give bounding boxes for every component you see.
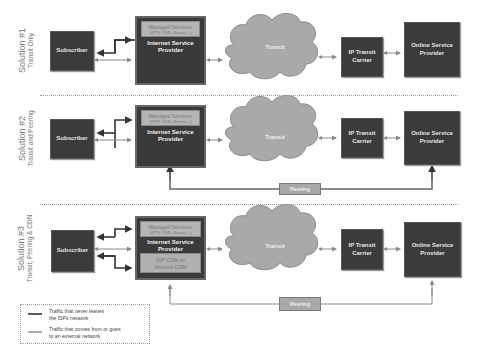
carrier-line1: IP Transit	[349, 49, 376, 55]
osp-line1: Online Service	[411, 42, 453, 48]
osp-line2: Provider	[420, 138, 444, 144]
solution-2-label: Solution #2 Transit and Peering	[17, 102, 34, 176]
osp-line1: Online Service	[412, 242, 454, 248]
legend-item-internal-line2: the ISPs network	[49, 315, 149, 322]
osp-line2: Provider	[420, 250, 444, 256]
managed-services-sub: (IPTV, VOD, Games...)	[142, 119, 199, 124]
managed-services-box: Managed Services (IPTV, VOD, Games...)	[141, 21, 200, 37]
managed-services-box: Managed Services (IPTV, VOD, Games...)	[141, 110, 200, 126]
isp-label-line1: Internet Service	[137, 238, 204, 245]
subscriber-box: Subscriber	[51, 230, 94, 272]
managed-services-sub: (IPTV, VOD, Games...)	[141, 230, 200, 235]
peering-box: Peering	[279, 297, 321, 311]
subscriber-label: Subscriber	[56, 47, 87, 55]
carrier-line1: IP Transit	[349, 242, 376, 248]
subscriber-box: Subscriber	[50, 31, 94, 71]
isp-box: Managed Services (IPTV, VOD, Games...) I…	[135, 16, 206, 85]
legend-item-external: Traffic that comes from or goes to an ex…	[49, 326, 149, 340]
osp-line1: Online Service	[411, 130, 453, 136]
solution-3-label: Solution #3 Transit, Peering & CDN	[16, 207, 33, 291]
isp-label: Internet Service Provider	[137, 39, 204, 53]
managed-services-box: Managed Services (IPTV, VOD, Games...)	[140, 221, 201, 237]
isp-label-line2: Provider	[137, 135, 204, 142]
solution-1-label: Solution #1 Transit Only	[17, 16, 34, 86]
separator-2	[40, 204, 285, 205]
carrier-line2: Carrier	[352, 138, 372, 144]
cdn-line1: ISP CDN or	[141, 257, 200, 264]
separator-2b	[285, 204, 458, 205]
cdn-box: ISP CDN or Hosted CDN	[140, 253, 201, 273]
legend-item-external-line1: Traffic that comes from or goes	[49, 326, 149, 333]
managed-services-sub: (IPTV, VOD, Games...)	[142, 30, 199, 35]
isp-label: Internet Service Provider	[137, 128, 204, 142]
transit-label: Transit	[250, 243, 300, 249]
transit-cloud	[225, 95, 317, 160]
transit-label: Transit	[250, 44, 300, 50]
solution-title: Solution #3	[16, 207, 26, 291]
ip-transit-carrier-box: IP TransitCarrier	[341, 118, 383, 158]
online-service-provider-box: Online ServiceProvider	[404, 111, 460, 165]
separator-1	[40, 95, 458, 96]
solution-subtitle: Transit, Peering & CDN	[26, 207, 33, 291]
isp-label-line2: Provider	[137, 46, 204, 53]
solution-title: Solution #2	[17, 102, 27, 176]
carrier-line2: Carrier	[352, 57, 372, 63]
solution-title: Solution #1	[17, 16, 27, 86]
cdn-line2: Hosted CDN	[141, 264, 200, 271]
solution-subtitle: Transit and Peering	[27, 102, 34, 176]
peering-box: Peering	[279, 183, 321, 195]
transit-label: Transit	[250, 134, 300, 140]
legend-item-external-line2: to an external network	[49, 333, 149, 340]
subscriber-box: Subscriber	[50, 119, 94, 159]
osp-line2: Provider	[420, 50, 444, 56]
online-service-provider-box: Online ServiceProvider	[404, 222, 461, 277]
carrier-line1: IP Transit	[349, 130, 376, 136]
isp-box: Managed Services (IPTV, VOD, Games...) I…	[135, 216, 206, 280]
isp-label-line1: Internet Service	[137, 39, 204, 46]
legend-item-internal-line1: Traffic that never leaves	[49, 308, 149, 315]
legend-item-internal: Traffic that never leaves the ISPs netwo…	[49, 308, 149, 322]
subscriber-label: Subscriber	[56, 135, 87, 143]
isp-box: Managed Services (IPTV, VOD, Games...) I…	[135, 105, 206, 168]
transit-cloud	[225, 204, 317, 269]
subscriber-label: Subscriber	[57, 247, 88, 255]
carrier-line2: Carrier	[352, 250, 372, 256]
online-service-provider-box: Online ServiceProvider	[404, 22, 460, 77]
isp-label-line2: Provider	[137, 245, 204, 252]
solution-subtitle: Transit Only	[27, 16, 34, 86]
isp-label: Internet Service Provider	[137, 238, 204, 252]
isp-label-line1: Internet Service	[137, 128, 204, 135]
ip-transit-carrier-box: IP TransitCarrier	[341, 37, 383, 77]
ip-transit-carrier-box: IP TransitCarrier	[341, 229, 383, 270]
